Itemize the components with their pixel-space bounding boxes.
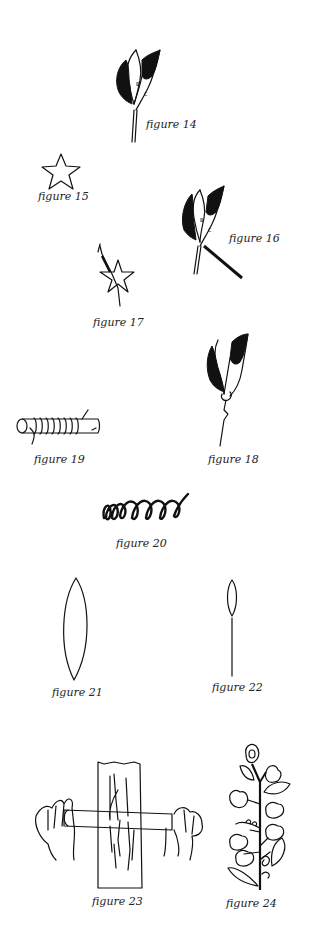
figure-16-caption: figure 16 <box>229 232 280 245</box>
figure-19-caption: figure 19 <box>34 453 85 466</box>
svg-text:B: B <box>200 217 204 223</box>
figure-15-illustration <box>40 152 82 192</box>
figure-21-caption: figure 21 <box>52 686 103 699</box>
figure-24-caption: figure 24 <box>226 897 277 910</box>
figure-19-illustration <box>12 410 102 450</box>
svg-text:C: C <box>144 91 148 97</box>
figure-21-illustration <box>60 576 92 682</box>
figure-22-caption: figure 22 <box>212 681 263 694</box>
figure-17-caption: figure 17 <box>93 316 144 329</box>
svg-text:A: A <box>128 93 132 99</box>
figure-24-illustration <box>222 742 302 892</box>
svg-text:B: B <box>136 81 140 87</box>
figure-16-illustration: A B C <box>180 186 260 276</box>
figure-23-illustration <box>34 760 206 890</box>
figure-15-caption: figure 15 <box>38 190 89 203</box>
figure-14-illustration: A B C <box>112 46 172 146</box>
figure-22-illustration <box>222 578 242 678</box>
figure-18-illustration <box>206 334 256 450</box>
svg-text:C: C <box>208 227 212 233</box>
figure-20-caption: figure 20 <box>116 537 167 550</box>
figure-20-illustration <box>100 492 190 526</box>
svg-text:A: A <box>192 229 196 235</box>
figure-18-caption: figure 18 <box>208 453 259 466</box>
figure-14-caption: figure 14 <box>146 118 197 131</box>
figure-23-caption: figure 23 <box>92 895 143 908</box>
figure-17-illustration <box>96 244 136 310</box>
